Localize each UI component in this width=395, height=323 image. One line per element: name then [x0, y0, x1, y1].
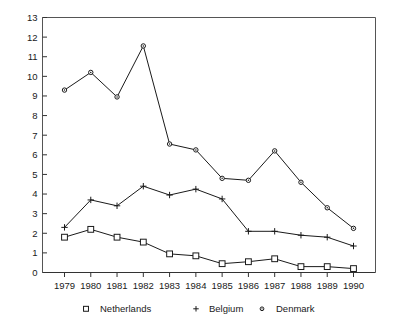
data-point	[193, 186, 199, 192]
data-point	[167, 251, 173, 257]
data-point	[350, 243, 356, 249]
y-axis-tick-label: 4	[32, 188, 37, 199]
legend-label: Netherlands	[100, 303, 151, 314]
x-axis-tick-label: 1980	[80, 280, 101, 291]
data-point	[272, 256, 278, 262]
data-point	[299, 180, 303, 184]
data-point	[194, 148, 198, 152]
chart-figure: 012345678910111213 197919801981198219831…	[0, 0, 395, 323]
data-point	[140, 239, 146, 245]
y-axis-tick-label: 12	[27, 32, 38, 43]
y-axis-tick-label: 2	[32, 228, 37, 239]
y-axis-tick-label: 7	[32, 130, 37, 141]
y-axis-tick-label: 5	[32, 169, 37, 180]
data-point	[324, 264, 330, 270]
data-point	[246, 178, 250, 182]
legend-marker-plus	[193, 306, 198, 311]
y-axis-ticks: 012345678910111213	[27, 12, 47, 278]
data-point	[115, 95, 119, 99]
series-denmark	[62, 44, 355, 231]
y-axis-tick-label: 3	[32, 208, 37, 219]
x-axis-tick-label: 1985	[212, 280, 233, 291]
data-point	[141, 44, 145, 48]
data-point	[324, 234, 330, 240]
line-chart: 012345678910111213 197919801981198219831…	[0, 0, 395, 323]
data-point	[62, 234, 68, 240]
legend-marker-open-square	[84, 306, 89, 311]
data-point	[193, 253, 199, 259]
y-axis-tick-label: 6	[32, 149, 37, 160]
x-axis-tick-label: 1984	[185, 280, 206, 291]
legend-item-netherlands: Netherlands	[84, 303, 152, 314]
chart-legend: NetherlandsBelgiumDenmark	[84, 303, 315, 314]
legend-label: Denmark	[276, 303, 315, 314]
x-axis-tick-label: 1989	[317, 280, 338, 291]
data-point	[89, 70, 93, 74]
legend-label: Belgium	[209, 303, 243, 314]
data-point	[88, 226, 94, 232]
y-axis-tick-label: 0	[32, 267, 37, 278]
y-axis-tick-label: 1	[32, 247, 37, 258]
data-point	[246, 259, 252, 265]
data-point	[351, 226, 355, 230]
data-point	[351, 266, 357, 272]
data-point	[220, 176, 224, 180]
x-axis-tick-label: 1979	[54, 280, 75, 291]
x-axis-tick-label: 1990	[343, 280, 364, 291]
y-axis-tick-label: 10	[27, 71, 38, 82]
y-axis-tick-label: 13	[27, 12, 38, 23]
y-axis-tick-label: 8	[32, 110, 37, 121]
data-point	[325, 206, 329, 210]
data-point	[219, 261, 225, 267]
series-netherlands	[62, 226, 357, 271]
data-point	[298, 264, 304, 270]
x-axis-tick-label: 1983	[159, 280, 180, 291]
data-point	[62, 88, 66, 92]
data-point	[114, 234, 120, 240]
x-axis-tick-label: 1987	[264, 280, 285, 291]
data-point	[272, 149, 276, 153]
x-axis-ticks: 1979198019811982198319841985198619871988…	[54, 273, 364, 291]
legend-marker-open-circle	[260, 307, 264, 311]
data-point	[271, 228, 277, 234]
series-container	[61, 44, 356, 272]
x-axis-tick-label: 1986	[238, 280, 259, 291]
y-axis-tick-label: 9	[32, 90, 37, 101]
legend-item-belgium: Belgium	[193, 303, 243, 314]
plot-frame	[43, 18, 376, 273]
data-point	[166, 192, 172, 198]
legend-item-denmark: Denmark	[260, 303, 315, 314]
data-point	[298, 232, 304, 238]
y-axis-tick-label: 11	[28, 51, 38, 62]
x-axis-tick-label: 1988	[290, 280, 311, 291]
data-point	[167, 142, 171, 146]
x-axis-tick-label: 1981	[106, 280, 127, 291]
x-axis-tick-label: 1982	[133, 280, 154, 291]
